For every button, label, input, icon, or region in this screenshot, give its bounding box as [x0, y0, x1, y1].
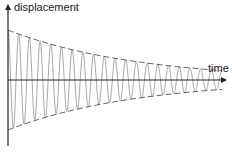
- damped-oscillation-diagram: [0, 0, 232, 155]
- oscillation-curve: [8, 30, 222, 128]
- y-axis-label: displacement: [14, 2, 79, 13]
- x-axis-label: time: [208, 63, 229, 74]
- lower-envelope: [8, 89, 222, 130]
- upper-envelope: [8, 30, 222, 71]
